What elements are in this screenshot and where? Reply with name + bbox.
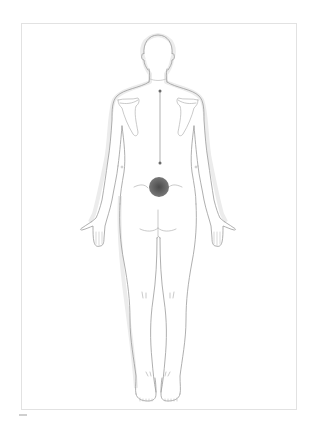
left-leg-inner bbox=[151, 238, 157, 392]
right-leg-inner bbox=[160, 238, 166, 392]
nape-line bbox=[150, 79, 166, 81]
markers bbox=[149, 90, 169, 198]
right-iliac-crest bbox=[168, 185, 182, 188]
body-diagram bbox=[0, 0, 315, 423]
crotch bbox=[157, 237, 160, 239]
right-elbow bbox=[195, 166, 197, 168]
left-scapula-spine bbox=[120, 100, 138, 104]
right-foot bbox=[161, 378, 180, 401]
right-torso bbox=[167, 82, 236, 246]
left-iliac-crest bbox=[134, 185, 148, 188]
diagram-page bbox=[0, 0, 315, 423]
right-fingers bbox=[214, 232, 220, 245]
right-knee bbox=[170, 292, 174, 298]
left-gluteal-fold bbox=[140, 228, 158, 231]
left-foot bbox=[136, 378, 156, 401]
right-inner-arm bbox=[194, 126, 198, 166]
left-knee bbox=[142, 292, 146, 298]
left-elbow bbox=[121, 166, 123, 168]
left-fingers bbox=[96, 232, 102, 245]
pain-region-marker bbox=[149, 177, 169, 197]
caption-mark bbox=[19, 414, 27, 416]
right-gluteal-fold bbox=[158, 228, 176, 231]
right-ankle bbox=[165, 372, 170, 376]
left-ankle bbox=[146, 372, 151, 376]
right-leg-outer bbox=[180, 204, 196, 394]
left-inner-arm bbox=[118, 126, 122, 166]
left-torso bbox=[81, 82, 150, 246]
mid-point-marker bbox=[159, 162, 162, 165]
right-scapula-spine bbox=[178, 100, 196, 104]
upper-point-marker bbox=[159, 90, 162, 93]
